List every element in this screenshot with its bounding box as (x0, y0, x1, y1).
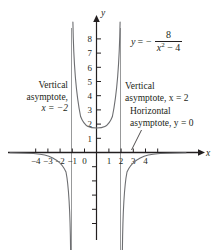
y-axis-label: y (100, 8, 106, 18)
equation-numerator: 8 (162, 30, 175, 41)
annotation-line: asymptote, y = 0 (130, 118, 193, 130)
y-tick-label: 1 (88, 134, 93, 144)
denominator-exponent: 2 (161, 41, 165, 49)
leader-line-horizontal-asymptote (132, 130, 142, 150)
x-tick-label: 4 (143, 156, 148, 166)
y-tick-label: 8 (88, 34, 93, 44)
y-tick-label: 6 (88, 63, 93, 73)
x-tick-label: 1 (107, 156, 112, 166)
annotation-horizontal-asymptote: Horizontal asymptote, y = 0 (130, 106, 193, 129)
x-tick-label: 0 (82, 156, 87, 166)
y-axis-arrow (93, 15, 100, 22)
curve-series (10, 22, 186, 250)
annotation-vertical-asymptote-left: Vertical asymptote, x = −2 (4, 80, 68, 115)
annotation-line: Vertical (4, 80, 68, 92)
annotation-vertical-asymptote-right: Vertical asymptote, x = 2 (125, 81, 188, 104)
equation-sign: − (145, 36, 153, 47)
x-tick-label: 2 (119, 156, 124, 166)
annotation-line: Horizontal (130, 106, 193, 118)
denominator-rest: − 4 (167, 42, 180, 53)
curve-branch-right (122, 153, 186, 250)
annotation-line: asymptote, (4, 92, 68, 104)
y-tick-label: 4 (88, 91, 93, 101)
x-tick-labels: −4 −3 −2 −1 0 1 2 3 4 (31, 156, 148, 166)
equation-fraction: 8 x2 − 4 (155, 30, 183, 53)
x-tick-label: −1 (68, 156, 78, 166)
x-tick-label: −4 (31, 156, 41, 166)
equation-label: y = − 8 x2 − 4 (131, 30, 182, 53)
annotation-line: x = −2 (4, 103, 68, 115)
equation-lhs: y (131, 36, 135, 47)
equation-denominator: x2 − 4 (155, 42, 183, 53)
annotation-line: asymptote, x = 2 (125, 93, 188, 105)
figure-container: −4 −3 −2 −1 0 1 2 3 4 1 2 3 4 5 6 7 8 x … (0, 0, 220, 250)
y-tick-label: 3 (88, 105, 93, 115)
x-axis-arrow (198, 149, 205, 156)
y-tick-label: 7 (88, 48, 93, 58)
annotation-line: Vertical (125, 81, 188, 93)
equation-equals: = (137, 36, 143, 47)
y-tick-label: 5 (88, 77, 93, 87)
curve-branch-left (10, 153, 71, 250)
x-axis-label: x (205, 148, 211, 158)
